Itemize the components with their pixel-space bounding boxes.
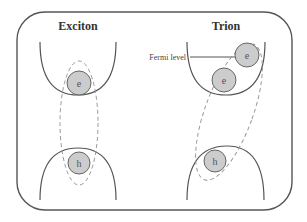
trion-valence-band xyxy=(187,146,264,200)
electron-label: e xyxy=(222,75,227,86)
diagram-frame xyxy=(17,12,292,210)
hole-label: h xyxy=(77,158,82,169)
exciton-title: Exciton xyxy=(58,19,98,33)
exciton-trion-diagram: Exciton e h Trion Fermi level xyxy=(0,0,307,222)
trion-electron-lower: e xyxy=(212,68,236,92)
trion-title: Trion xyxy=(212,19,241,33)
trion-binding-outline xyxy=(182,36,276,188)
exciton-hole: h xyxy=(68,152,90,174)
exciton-panel: Exciton e h xyxy=(40,19,116,200)
exciton-electron: e xyxy=(67,71,91,95)
trion-hole: h xyxy=(204,150,226,172)
trion-panel: Trion Fermi level e e h xyxy=(149,19,276,200)
fermi-level-label: Fermi level xyxy=(149,53,186,62)
electron-label: e xyxy=(245,50,250,61)
hole-label: h xyxy=(213,156,218,167)
trion-electron-upper: e xyxy=(235,43,259,67)
electron-label: e xyxy=(77,78,82,89)
